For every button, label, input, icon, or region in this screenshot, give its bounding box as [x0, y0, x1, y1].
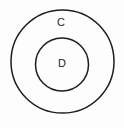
euler-diagram-container: C D	[0, 0, 124, 128]
set-label-d: D	[58, 57, 66, 69]
euler-diagram-canvas: C D	[0, 0, 124, 128]
set-label-c: C	[57, 16, 65, 28]
